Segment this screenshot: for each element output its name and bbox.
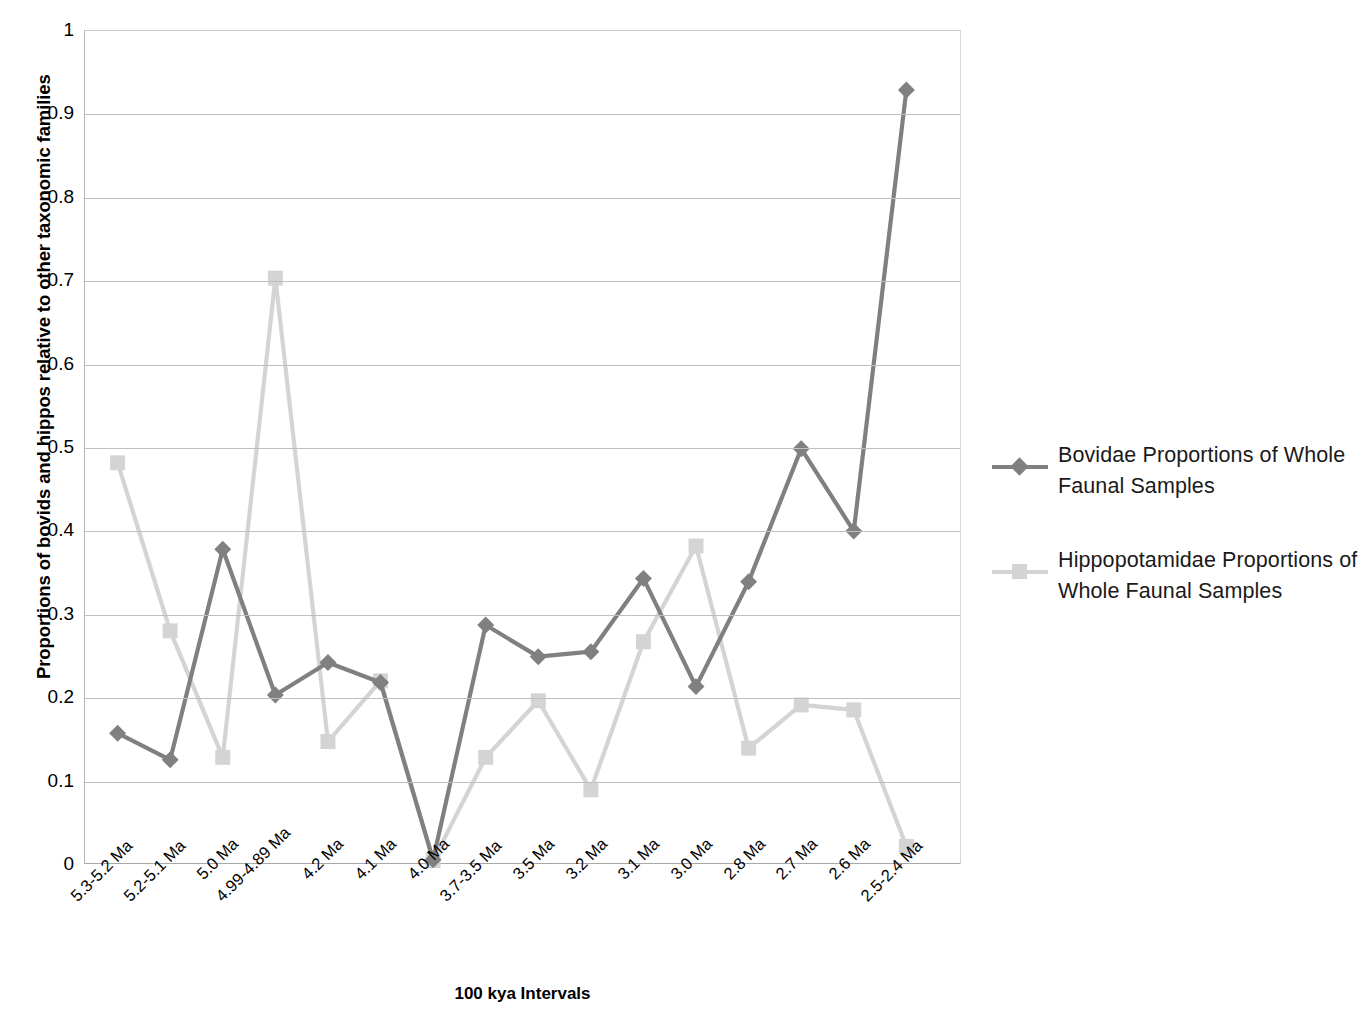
legend-marker-hippopotamidae	[992, 559, 1048, 585]
data-point-marker	[268, 271, 283, 286]
gridline	[85, 365, 960, 366]
data-point-marker	[846, 702, 861, 717]
data-point-marker	[215, 750, 230, 765]
data-point-marker	[794, 697, 809, 712]
gridline	[85, 782, 960, 783]
data-point-marker	[214, 541, 231, 558]
y-tick-label: 0.9	[14, 102, 74, 124]
gridline	[85, 281, 960, 282]
data-point-marker	[110, 455, 125, 470]
data-point-marker	[688, 678, 705, 695]
gridline	[85, 615, 960, 616]
data-point-marker	[478, 750, 493, 765]
gridline	[85, 531, 960, 532]
y-tick-label: 0.4	[14, 519, 74, 541]
data-point-marker	[898, 82, 915, 99]
square-marker-icon	[1012, 564, 1027, 579]
data-point-marker	[320, 734, 335, 749]
gridline	[85, 698, 960, 699]
data-point-marker	[583, 782, 598, 797]
legend-entry-bovidae: Bovidae Proportions of Whole Faunal Samp…	[992, 440, 1358, 501]
data-point-marker	[740, 573, 757, 590]
y-tick-label: 0	[14, 853, 74, 875]
y-tick-label: 0.1	[14, 770, 74, 792]
series-line	[118, 90, 907, 860]
gridline	[85, 198, 960, 199]
y-tick-label: 1	[14, 19, 74, 41]
series-lines	[85, 31, 960, 863]
chart-legend: Bovidae Proportions of Whole Faunal Samp…	[992, 440, 1358, 650]
y-tick-label: 0.2	[14, 686, 74, 708]
data-point-marker	[689, 539, 704, 554]
y-tick-label: 0.5	[14, 436, 74, 458]
chart-figure: Proportions of bovids and hippos relativ…	[0, 0, 1358, 1018]
data-point-marker	[109, 725, 126, 742]
y-tick-label: 0.3	[14, 603, 74, 625]
legend-label-bovidae: Bovidae Proportions of Whole Faunal Samp…	[1058, 440, 1358, 501]
gridline	[85, 114, 960, 115]
legend-marker-bovidae	[992, 454, 1048, 480]
x-axis-title: 100 kya Intervals	[84, 984, 961, 1004]
diamond-marker-icon	[1010, 457, 1028, 475]
legend-label-hippopotamidae: Hippopotamidae Proportions of Whole Faun…	[1058, 545, 1358, 606]
data-point-marker	[741, 741, 756, 756]
data-point-marker	[162, 751, 179, 768]
y-axis-tick-labels: 00.10.20.30.40.50.60.70.80.91	[12, 0, 74, 1018]
y-tick-label: 0.7	[14, 269, 74, 291]
data-point-marker	[163, 623, 178, 638]
legend-entry-hippopotamidae: Hippopotamidae Proportions of Whole Faun…	[992, 545, 1358, 606]
data-point-marker	[636, 634, 651, 649]
y-tick-label: 0.6	[14, 353, 74, 375]
y-tick-label: 0.8	[14, 186, 74, 208]
data-point-marker	[531, 693, 546, 708]
gridline	[85, 448, 960, 449]
plot-area	[84, 30, 961, 864]
